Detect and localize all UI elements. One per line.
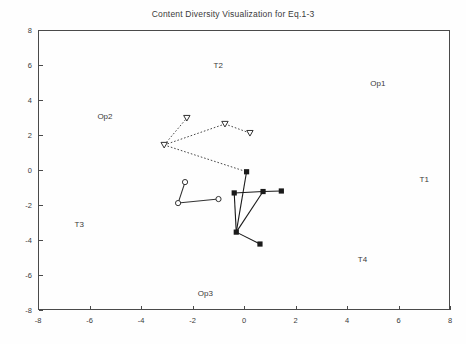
square-marker — [260, 189, 265, 194]
triangles-edge — [164, 124, 225, 145]
squares-edge — [263, 191, 281, 192]
circle-marker — [182, 179, 187, 184]
y-tick-mark — [39, 205, 43, 206]
y-tick-mark — [39, 65, 43, 66]
square-marker — [279, 188, 284, 193]
x-tick-label: -4 — [138, 316, 145, 325]
triangle-marker — [222, 121, 228, 127]
squares-edge — [234, 193, 236, 232]
triangle-marker — [247, 130, 253, 136]
x-tick-label: 4 — [345, 316, 349, 325]
square-marker — [244, 169, 249, 174]
region-label-t2: T2 — [214, 61, 223, 70]
squares-edge — [236, 232, 260, 244]
x-tick-mark — [244, 306, 245, 310]
x-tick-label: -6 — [86, 316, 93, 325]
region-label-t1: T1 — [420, 174, 429, 183]
x-tick-label: 2 — [293, 316, 297, 325]
region-label-op3: Op3 — [198, 288, 213, 297]
y-tick-label: 0 — [8, 166, 32, 175]
x-tick-label: -8 — [35, 316, 42, 325]
cross-series-edge — [164, 145, 246, 172]
y-tick-mark — [39, 240, 43, 241]
data-canvas — [38, 30, 450, 310]
chart-root: Content Diversity Visualization for Eq.1… — [0, 0, 466, 344]
y-tick-label: -4 — [8, 236, 32, 245]
x-tick-mark — [90, 306, 91, 310]
x-tick-label: 8 — [448, 316, 452, 325]
y-tick-label: -8 — [8, 306, 32, 315]
y-tick-label: 2 — [8, 131, 32, 140]
circle-marker — [175, 200, 180, 205]
triangles-edge — [225, 124, 250, 133]
region-label-op1: Op1 — [370, 78, 385, 87]
square-marker — [234, 230, 239, 235]
x-tick-mark — [141, 306, 142, 310]
region-label-t4: T4 — [358, 255, 367, 264]
x-tick-mark — [399, 306, 400, 310]
square-marker — [232, 190, 237, 195]
y-tick-label: 6 — [8, 61, 32, 70]
x-tick-mark — [347, 306, 348, 310]
y-tick-mark — [39, 275, 43, 276]
x-tick-mark — [450, 306, 451, 310]
x-tick-mark — [193, 306, 194, 310]
square-marker — [257, 241, 262, 246]
circle-marker — [216, 196, 221, 201]
y-tick-mark — [39, 30, 43, 31]
y-tick-mark — [39, 135, 43, 136]
y-tick-mark — [39, 100, 43, 101]
plot-area — [38, 30, 450, 310]
triangle-marker — [161, 142, 167, 148]
circles-edge — [178, 182, 185, 203]
region-label-t3: T3 — [75, 220, 84, 229]
region-label-op2: Op2 — [97, 111, 112, 120]
y-tick-mark — [39, 310, 43, 311]
x-tick-label: 6 — [396, 316, 400, 325]
x-tick-label: -2 — [189, 316, 196, 325]
chart-title: Content Diversity Visualization for Eq.1… — [0, 9, 466, 19]
y-tick-label: -6 — [8, 271, 32, 280]
y-tick-mark — [39, 170, 43, 171]
y-tick-label: -2 — [8, 201, 32, 210]
x-tick-mark — [296, 306, 297, 310]
y-tick-label: 8 — [8, 26, 32, 35]
y-tick-label: 4 — [8, 96, 32, 105]
squares-edge — [236, 172, 246, 232]
squares-edge — [234, 192, 263, 193]
circles-edge — [178, 199, 218, 203]
x-tick-label: 0 — [242, 316, 246, 325]
